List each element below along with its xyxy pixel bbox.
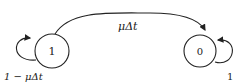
- state-1-self-loop-label: 1 − μΔt: [4, 71, 44, 82]
- state-0-self-loop-label: 1: [227, 71, 233, 82]
- state-1-label: 1: [49, 45, 56, 58]
- self-loop-state-1: [16, 38, 36, 60]
- self-loop-state-0: [215, 40, 232, 63]
- diagram-canvas: μΔt 1 1 − μΔt 0 1: [0, 0, 250, 84]
- state-diagram: μΔt 1 1 − μΔt 0 1: [0, 0, 250, 84]
- transition-label: μΔt: [118, 20, 138, 33]
- state-0-label: 0: [197, 46, 203, 57]
